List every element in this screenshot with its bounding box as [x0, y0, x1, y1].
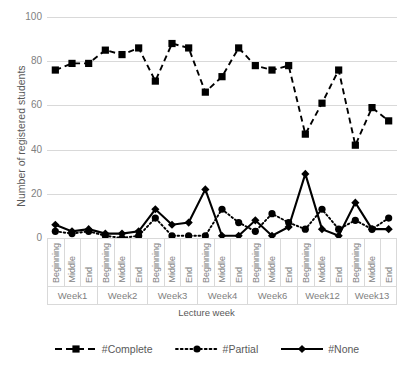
datapoint-complete-2	[85, 60, 92, 67]
datapoint-partial-20	[385, 215, 392, 222]
legend-label-none: #None	[328, 343, 359, 355]
datapoint-complete-20	[385, 117, 392, 124]
series-layer	[47, 17, 397, 238]
datapoint-partial-16	[318, 206, 325, 213]
datapoint-complete-3	[102, 47, 109, 54]
group-label-week12: Week12	[297, 286, 347, 304]
y-axis-tick-labels: 020406080100	[0, 0, 47, 260]
category-tick-10: Middle	[214, 238, 231, 286]
datapoint-partial-13	[268, 210, 275, 217]
datapoint-complete-17	[335, 66, 342, 73]
category-tick-19: Middle	[364, 238, 381, 286]
datapoint-none-9	[201, 185, 209, 193]
category-axis-bottom-rule	[47, 304, 397, 305]
datapoint-complete-19	[368, 104, 375, 111]
legend-item-none: #None	[280, 343, 359, 355]
datapoint-complete-4	[118, 51, 125, 58]
datapoint-complete-14	[285, 62, 292, 69]
category-tick-6: Beginning	[147, 238, 164, 286]
legend-item-partial: #Partial	[175, 343, 259, 355]
group-label-week2: Week2	[97, 286, 147, 304]
group-label-week1: Week1	[47, 286, 97, 304]
datapoint-complete-7	[168, 40, 175, 47]
datapoint-partial-0	[52, 228, 59, 235]
category-tick-3: Beginning	[97, 238, 114, 286]
datapoint-none-16	[318, 225, 326, 233]
group-label-week13: Week13	[347, 286, 397, 304]
datapoint-partial-6	[152, 215, 159, 222]
category-tick-7: Middle	[164, 238, 181, 286]
datapoint-complete-8	[185, 44, 192, 51]
category-label-11: End	[234, 267, 244, 283]
datapoint-complete-13	[268, 66, 275, 73]
category-tick-8: End	[180, 238, 197, 286]
datapoint-complete-6	[152, 77, 159, 84]
category-tick-4: Middle	[114, 238, 131, 286]
category-tick-1: Middle	[64, 238, 81, 286]
chart-container: Number of registered students 0204060801…	[0, 0, 413, 369]
datapoint-partial-15	[302, 226, 309, 233]
datapoint-complete-5	[135, 44, 142, 51]
datapoint-complete-12	[252, 62, 259, 69]
category-label-6: Beginning	[151, 243, 161, 283]
category-label-15: Beginning	[301, 243, 311, 283]
category-label-14: End	[284, 267, 294, 283]
datapoint-complete-16	[318, 100, 325, 107]
category-tick-16: Middle	[314, 238, 331, 286]
series-complete	[52, 40, 393, 149]
y-axis-tick-100: 100	[25, 12, 42, 22]
category-tick-12: Beginning	[247, 238, 264, 286]
legend-marker	[72, 345, 79, 352]
category-label-12: Beginning	[251, 243, 261, 283]
category-axis: BeginningMiddleEndBeginningMiddleEndBegi…	[47, 238, 397, 304]
legend-marker	[298, 345, 306, 353]
category-label-9: Beginning	[201, 243, 211, 283]
category-label-20: End	[384, 267, 394, 283]
group-label-week4: Week4	[197, 286, 247, 304]
legend-swatch-complete	[54, 343, 98, 355]
y-axis-tick-40: 40	[31, 145, 42, 155]
datapoint-complete-0	[52, 66, 59, 73]
y-axis-tick-0: 0	[36, 233, 42, 243]
datapoint-complete-15	[302, 131, 309, 138]
datapoint-none-0	[51, 221, 59, 229]
category-label-16: Middle	[317, 256, 327, 283]
datapoint-none-20	[385, 225, 393, 233]
category-label-1: Middle	[67, 256, 77, 283]
legend-label-partial: #Partial	[223, 343, 259, 355]
datapoint-complete-18	[352, 142, 359, 149]
datapoint-partial-18	[352, 217, 359, 224]
group-label-week6: Week6	[247, 286, 297, 304]
category-label-8: End	[184, 267, 194, 283]
group-label-week3: Week3	[147, 286, 197, 304]
datapoint-none-15	[301, 170, 309, 178]
category-label-13: Middle	[267, 256, 277, 283]
datapoint-partial-10	[218, 206, 225, 213]
y-axis-tick-20: 20	[31, 189, 42, 199]
category-tick-5: End	[130, 238, 147, 286]
category-tick-18: Beginning	[347, 238, 364, 286]
category-label-17: End	[334, 267, 344, 283]
legend-label-complete: #Complete	[102, 343, 153, 355]
category-label-18: Beginning	[351, 243, 361, 283]
legend-item-complete: #Complete	[54, 343, 153, 355]
category-tick-0: Beginning	[47, 238, 64, 286]
datapoint-complete-10	[218, 73, 225, 80]
category-tick-14: End	[280, 238, 297, 286]
category-tick-13: Middle	[264, 238, 281, 286]
category-label-0: Beginning	[51, 243, 61, 283]
category-label-3: Beginning	[101, 243, 111, 283]
legend-swatch-partial	[175, 343, 219, 355]
datapoint-complete-1	[68, 60, 75, 67]
category-tick-2: End	[80, 238, 97, 286]
chart-legend: #Complete#Partial#None	[0, 338, 413, 360]
series-line-complete	[55, 44, 388, 146]
category-tick-17: End	[330, 238, 347, 286]
category-tick-11: End	[230, 238, 247, 286]
datapoint-complete-9	[202, 89, 209, 96]
category-tick-15: Beginning	[297, 238, 314, 286]
datapoint-partial-12	[252, 228, 259, 235]
legend-swatch-none	[280, 343, 324, 355]
legend-marker	[193, 345, 200, 352]
category-label-19: Middle	[367, 256, 377, 283]
